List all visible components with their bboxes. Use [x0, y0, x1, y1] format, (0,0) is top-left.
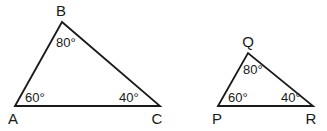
vertex-label-p: P [212, 110, 222, 127]
angle-label-r: 40° [281, 90, 301, 105]
angle-label-c: 40° [119, 90, 139, 105]
angle-label-q: 80° [243, 62, 263, 77]
similar-triangles-svg: B A C 80° 60° 40° Q P R 80° 60° 40° [0, 0, 327, 131]
vertex-label-r: R [306, 110, 317, 127]
geometry-figure: B A C 80° 60° 40° Q P R 80° 60° 40° [0, 0, 327, 131]
triangle-abc: B A C 80° 60° 40° [8, 2, 163, 127]
triangle-pqr: Q P R 80° 60° 40° [212, 33, 317, 127]
vertex-label-b: B [56, 2, 66, 19]
vertex-label-a: A [8, 110, 18, 127]
angle-label-b: 80° [56, 35, 76, 50]
angle-label-p: 60° [228, 90, 248, 105]
angle-label-a: 60° [25, 90, 45, 105]
vertex-label-c: C [152, 110, 163, 127]
vertex-label-q: Q [242, 33, 254, 50]
